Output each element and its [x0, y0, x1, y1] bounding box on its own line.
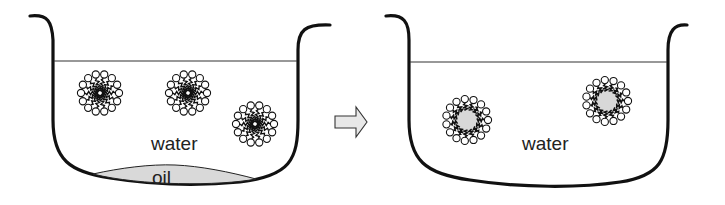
water-label: water: [150, 133, 198, 154]
right-arrow-icon: [335, 107, 367, 137]
micelle-icon: [443, 96, 492, 145]
micelle-icon: [583, 77, 632, 126]
micelle-icon: [165, 71, 210, 115]
oil-label: oil: [152, 167, 171, 188]
right-pot: water: [386, 16, 687, 187]
emulsification-diagram: water oil water: [0, 0, 725, 205]
micelle-icon: [77, 71, 122, 115]
oil-layer: [93, 165, 256, 184]
micelle-icon: [232, 102, 277, 146]
water-label: water: [521, 133, 569, 154]
